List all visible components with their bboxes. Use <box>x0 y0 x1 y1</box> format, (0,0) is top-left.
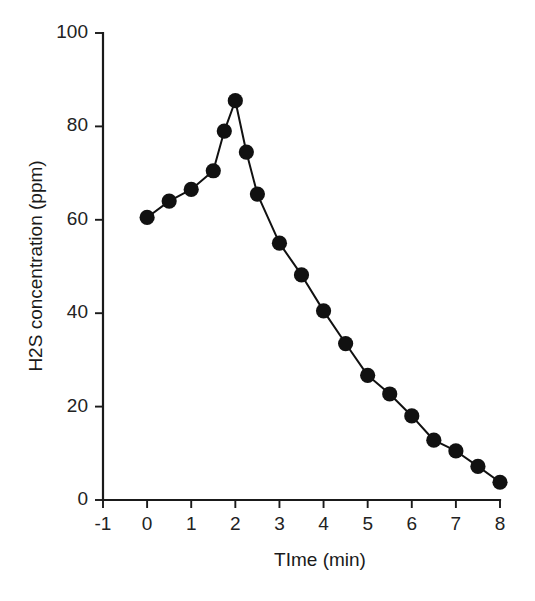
line-chart: -1012345678 020406080100 TIme (min) H2S … <box>0 0 535 601</box>
data-point-10 <box>316 303 331 318</box>
y-axis-title: H2S concentration (ppm) <box>25 160 46 371</box>
y-tick-label-2: 40 <box>67 301 88 322</box>
data-point-7 <box>250 187 265 202</box>
axis-spines <box>103 33 500 500</box>
x-tick-label-7: 6 <box>406 513 417 534</box>
x-tick-label-6: 5 <box>362 513 373 534</box>
x-tick-label-3: 2 <box>230 513 241 534</box>
x-tick-label-8: 7 <box>451 513 462 534</box>
data-point-14 <box>404 408 419 423</box>
y-tick-label-3: 60 <box>67 208 88 229</box>
data-point-0 <box>140 210 155 225</box>
x-tick-label-4: 3 <box>274 513 285 534</box>
data-point-9 <box>294 267 309 282</box>
data-point-17 <box>470 459 485 474</box>
data-point-1 <box>162 194 177 209</box>
x-tick-label-2: 1 <box>186 513 197 534</box>
data-point-15 <box>426 433 441 448</box>
data-point-markers <box>140 93 508 490</box>
x-tick-label-0: -1 <box>95 513 112 534</box>
data-series <box>147 101 500 483</box>
x-axis-tick-labels: -1012345678 <box>95 513 506 534</box>
data-point-3 <box>206 163 221 178</box>
x-tick-label-9: 8 <box>495 513 506 534</box>
x-tick-label-5: 4 <box>318 513 329 534</box>
y-tick-label-0: 0 <box>77 488 88 509</box>
data-point-6 <box>239 144 254 159</box>
data-point-8 <box>272 236 287 251</box>
x-tick-label-1: 0 <box>142 513 153 534</box>
y-tick-label-4: 80 <box>67 114 88 135</box>
y-tick-label-5: 100 <box>56 21 88 42</box>
y-tick-label-1: 20 <box>67 395 88 416</box>
data-point-11 <box>338 336 353 351</box>
y-axis-tick-labels: 020406080100 <box>56 21 88 509</box>
data-point-13 <box>382 386 397 401</box>
chart-axes <box>103 33 500 500</box>
chart-figure: -1012345678 020406080100 TIme (min) H2S … <box>0 0 535 601</box>
data-point-5 <box>228 93 243 108</box>
data-point-12 <box>360 368 375 383</box>
data-point-2 <box>184 182 199 197</box>
x-axis-title: TIme (min) <box>274 549 366 570</box>
series-line-h2s <box>147 101 500 483</box>
data-point-16 <box>448 443 463 458</box>
data-point-18 <box>492 475 507 490</box>
data-point-4 <box>217 123 232 138</box>
